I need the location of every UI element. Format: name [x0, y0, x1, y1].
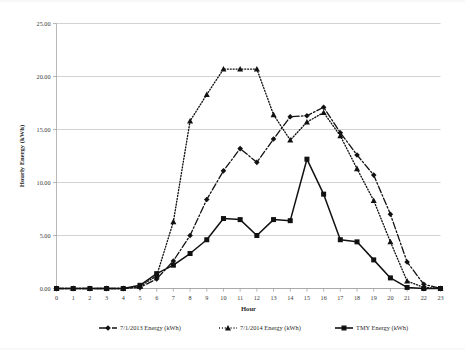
y-tick-label: 25.00 — [37, 20, 51, 27]
series-marker-square — [304, 157, 309, 162]
series-marker-square — [288, 218, 293, 223]
x-tick-label: 18 — [354, 294, 360, 301]
series-marker-square — [438, 286, 443, 291]
x-tick-label: 1 — [72, 294, 75, 301]
x-tick-label: 9 — [205, 294, 208, 301]
series-marker-square — [271, 217, 276, 222]
series-marker-diamond — [287, 114, 293, 120]
x-tick-label: 2 — [88, 294, 91, 301]
x-tick-label: 4 — [122, 294, 125, 301]
series-line-triangle — [57, 69, 441, 288]
y-tick-label: 15.00 — [37, 126, 51, 133]
legend-marker-square — [342, 326, 347, 331]
x-tick-label: 3 — [105, 294, 108, 301]
series-marker-square — [87, 286, 92, 291]
series-marker-diamond — [221, 168, 227, 174]
x-tick-label: 6 — [155, 294, 158, 301]
series-marker-square — [254, 233, 259, 238]
series-marker-diamond — [388, 212, 394, 218]
x-tick-label: 19 — [371, 294, 377, 301]
series-marker-diamond — [204, 197, 210, 203]
x-tick-label: 17 — [337, 294, 343, 301]
y-axis-title: Hourly Energy (kWh) — [18, 125, 26, 187]
series-marker-square — [121, 286, 126, 291]
x-tick-label: 5 — [138, 294, 141, 301]
series-marker-triangle — [304, 119, 310, 125]
x-tick-label: 15 — [304, 294, 310, 301]
legend-label-3: TMY Energy (kWh) — [356, 324, 408, 332]
x-tick-label: 14 — [287, 294, 293, 301]
chart-canvas: 0.005.0010.0015.0020.0025.00012345678910… — [0, 0, 465, 350]
series-marker-triangle — [271, 112, 277, 118]
series-marker-square — [238, 217, 243, 222]
y-tick-label: 10.00 — [37, 179, 51, 186]
legend-label-1: 7/1/2013 Energy (kWh) — [120, 324, 181, 332]
series-marker-square — [388, 275, 393, 280]
x-axis-title: Hour — [241, 305, 256, 312]
y-tick-label: 0.00 — [40, 285, 51, 292]
series-marker-square — [338, 237, 343, 242]
x-tick-label: 22 — [421, 294, 427, 301]
y-tick-label: 20.00 — [37, 73, 51, 80]
series-marker-square — [221, 216, 226, 221]
series-marker-triangle — [371, 197, 377, 203]
series-marker-diamond — [304, 113, 310, 119]
series-line-diamond — [57, 107, 441, 288]
x-tick-label: 23 — [437, 294, 443, 301]
series-marker-square — [405, 285, 410, 290]
x-tick-label: 10 — [220, 294, 226, 301]
series-marker-square — [355, 239, 360, 244]
legend-marker-diamond — [105, 325, 111, 331]
series-marker-square — [371, 257, 376, 262]
series-marker-triangle — [354, 166, 360, 172]
energy-line-chart: 0.005.0010.0015.0020.0025.00012345678910… — [0, 0, 465, 350]
series-marker-square — [421, 286, 426, 291]
x-tick-label: 11 — [237, 294, 243, 301]
x-tick-label: 20 — [387, 294, 393, 301]
series-marker-square — [71, 286, 76, 291]
legend-label-2: 7/1/2014 Energy (kWh) — [240, 324, 301, 332]
series-marker-triangle — [387, 239, 393, 245]
legend-marker-triangle — [225, 325, 231, 331]
series-marker-square — [137, 283, 142, 288]
series-marker-square — [104, 286, 109, 291]
series-marker-triangle — [170, 219, 176, 225]
x-tick-label: 13 — [270, 294, 276, 301]
y-tick-label: 5.00 — [40, 232, 51, 239]
x-tick-label: 16 — [321, 294, 327, 301]
series-marker-square — [54, 286, 59, 291]
x-tick-label: 7 — [172, 294, 175, 301]
x-tick-label: 0 — [55, 294, 58, 301]
series-marker-diamond — [187, 233, 193, 239]
series-marker-square — [171, 263, 176, 268]
series-marker-square — [204, 237, 209, 242]
x-tick-label: 8 — [189, 294, 192, 301]
series-marker-square — [154, 271, 159, 276]
series-marker-square — [188, 251, 193, 256]
series-marker-square — [321, 192, 326, 197]
x-tick-label: 12 — [254, 294, 260, 301]
series-marker-triangle — [404, 278, 410, 284]
x-tick-label: 21 — [404, 294, 410, 301]
